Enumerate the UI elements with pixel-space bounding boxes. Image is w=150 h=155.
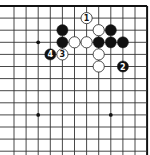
black-stone <box>57 37 68 48</box>
black-stone <box>93 37 104 48</box>
black-stone-2: 2 <box>117 61 128 72</box>
star-point <box>36 113 40 117</box>
star-point <box>109 113 113 117</box>
white-stone-3: 3 <box>57 49 68 60</box>
move-number: 2 <box>120 63 126 72</box>
white-stone <box>81 37 92 48</box>
black-stone <box>105 25 116 36</box>
star-point <box>36 40 40 44</box>
black-stone <box>57 25 68 36</box>
go-board: 1432 <box>0 0 150 155</box>
black-stone <box>105 37 116 48</box>
move-number: 3 <box>60 50 66 59</box>
black-stone <box>117 37 128 48</box>
white-stone <box>93 49 104 60</box>
white-stone-1: 1 <box>81 13 92 24</box>
move-number: 4 <box>48 50 54 59</box>
black-stone-4: 4 <box>45 49 56 60</box>
move-number: 1 <box>84 14 90 23</box>
white-stone <box>93 61 104 72</box>
board-grid <box>0 6 147 155</box>
white-stone <box>93 25 104 36</box>
white-stone <box>69 37 80 48</box>
